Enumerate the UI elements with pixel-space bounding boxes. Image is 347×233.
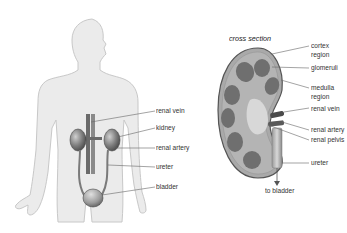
urinary-system-diagram: renal vein kidney renal artery ureter bl…: [0, 0, 347, 233]
diagram-graphics: [0, 0, 347, 233]
label-renal-pelvis: renal pelvis: [311, 136, 344, 144]
label-bladder: bladder: [156, 183, 178, 191]
cross-section-title: cross section: [229, 34, 271, 43]
label-cortex: cortex: [311, 42, 329, 50]
bladder-organ: [83, 189, 103, 207]
label-ureter: ureter: [156, 163, 173, 171]
label-glomeruli: glomeruli: [311, 64, 338, 72]
label-renal-artery-cs: renal artery: [311, 126, 344, 134]
label-to-bladder: to bladder: [265, 187, 294, 195]
label-ureter-cs: ureter: [311, 159, 328, 167]
kidney-cross-section: [218, 48, 284, 186]
label-renal-vein: renal vein: [156, 107, 185, 115]
label-renal-artery: renal artery: [156, 144, 189, 152]
label-renal-vein-cs: renal vein: [311, 105, 340, 113]
label-cortex-region: region: [311, 51, 329, 59]
label-medulla: medulla: [311, 84, 334, 92]
label-medulla-region: region: [311, 93, 329, 101]
label-kidney: kidney: [156, 124, 175, 132]
